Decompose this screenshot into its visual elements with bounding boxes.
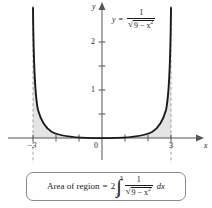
integral-upper-limit: 3 (120, 175, 123, 181)
curve-equation-label: y = 1 √ 9 − x2 (112, 9, 156, 30)
x-axis-arrow (196, 135, 204, 142)
y-tick-label-2: 2 (91, 38, 95, 46)
x-axis-label: x (204, 142, 208, 150)
curve-equation-radicand: 9 − x2 (133, 20, 154, 30)
caption-equals: = (103, 182, 108, 191)
area-under-curve-figure: −3 0 3 1 2 x y y = 1 √ 9 − x2 Area of re… (0, 0, 212, 208)
integral-operator: ∫ 3 0 (116, 178, 122, 195)
radicand-text: 9 − x (134, 21, 151, 30)
caption-fraction: 1 √ 9 − x2 (125, 176, 153, 197)
caption-formula: Area of region = 2 ∫ 3 0 1 √ 9 − x2 dx (47, 176, 165, 197)
curve-equation-lhs: y (112, 16, 116, 24)
caption-coefficient: 2 (111, 182, 116, 191)
integral-limits: 3 0 (120, 178, 123, 195)
y-axis-arrow (99, 2, 106, 10)
integral-lower-limit: 0 (117, 192, 120, 198)
caption-box: Area of region = 2 ∫ 3 0 1 √ 9 − x2 dx (26, 172, 186, 201)
y-tick-label-1: 1 (91, 86, 95, 94)
caption-radicand-exponent: 2 (148, 186, 151, 192)
caption-differential: dx (157, 182, 165, 191)
curve-equation-equals: = (119, 16, 124, 24)
caption-radicand: 9 − x2 (131, 187, 152, 197)
radicand-exponent: 2 (151, 19, 154, 25)
x-tick-label-zero: 0 (94, 142, 98, 150)
caption-denominator: √ 9 − x2 (125, 187, 153, 197)
x-tick-label-3: 3 (169, 142, 173, 150)
curve-equation-numerator: 1 (137, 9, 145, 17)
caption-radicand-text: 9 − x (132, 188, 149, 197)
caption-text: Area of region (47, 182, 99, 191)
x-tick-label-neg3: −3 (27, 142, 36, 150)
curve-equation-denominator: √ 9 − x2 (127, 20, 155, 30)
caption-numerator: 1 (135, 176, 143, 184)
curve-equation-fraction: 1 √ 9 − x2 (127, 9, 155, 30)
y-axis-label: y (92, 3, 96, 11)
